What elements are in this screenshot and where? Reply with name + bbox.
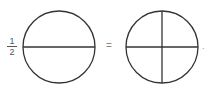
fraction-circles-diagram [0, 0, 209, 85]
trailing-dot: · [202, 44, 205, 53]
circle-quarters [126, 11, 198, 83]
equals-sign: = [106, 40, 112, 51]
circle-halves [23, 11, 95, 83]
